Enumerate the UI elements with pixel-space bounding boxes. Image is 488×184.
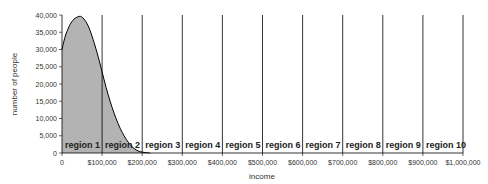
x-tick-label: 0 <box>60 159 64 166</box>
x-tick-label: $700,000 <box>328 159 357 166</box>
y-axis-title: number of people <box>10 52 19 115</box>
x-tick-label: $800,000 <box>368 159 397 166</box>
y-axis-ticks: 05,00010,00015,00020,00025,00030,00035,0… <box>36 12 62 157</box>
region-label: region 3 <box>145 140 180 150</box>
x-tick-label: $500,000 <box>248 159 277 166</box>
plot-area <box>62 16 150 153</box>
region-label: region 5 <box>225 140 260 150</box>
region-label: region 7 <box>306 140 341 150</box>
region-label: region 1 <box>65 140 100 150</box>
x-tick-label: $200,000 <box>128 159 157 166</box>
distribution-area <box>62 16 150 153</box>
income-distribution-chart: region 1region 2region 3region 4region 5… <box>0 0 488 184</box>
y-tick-label: 10,000 <box>36 115 58 122</box>
x-tick-label: $400,000 <box>208 159 237 166</box>
region-labels: region 1region 2region 3region 4region 5… <box>65 140 466 150</box>
x-tick-label: $600,000 <box>288 159 317 166</box>
region-dividers <box>102 15 463 153</box>
y-tick-label: 15,000 <box>36 98 58 105</box>
x-tick-label: $300,000 <box>168 159 197 166</box>
region-label: region 6 <box>266 140 301 150</box>
region-label: region 4 <box>185 140 220 150</box>
x-tick-label: $1,000,000 <box>445 159 480 166</box>
region-label: region 8 <box>346 140 381 150</box>
region-label: region 10 <box>426 140 466 150</box>
y-tick-label: 5,000 <box>39 132 57 139</box>
region-label: region 9 <box>386 140 421 150</box>
y-tick-label: 0 <box>53 150 57 157</box>
y-tick-label: 30,000 <box>36 46 58 53</box>
x-axis-title: income <box>249 172 275 181</box>
y-tick-label: 20,000 <box>36 81 58 88</box>
y-tick-label: 35,000 <box>36 29 58 36</box>
y-tick-label: 25,000 <box>36 63 58 70</box>
x-axis-ticks: 0$100,000$200,000$300,000$400,000$500,00… <box>60 153 481 166</box>
x-tick-label: $100,000 <box>87 159 116 166</box>
x-tick-label: $900,000 <box>408 159 437 166</box>
y-tick-label: 40,000 <box>36 12 58 19</box>
region-label: region 2 <box>105 140 140 150</box>
